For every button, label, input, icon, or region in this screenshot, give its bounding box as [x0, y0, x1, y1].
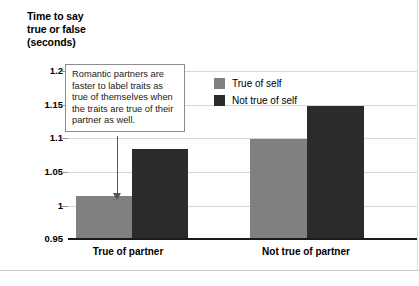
- gridline-1.1: [68, 138, 417, 139]
- legend-label-true-of-self: True of self: [232, 78, 282, 89]
- y-tick-label-1: 1: [6, 200, 63, 211]
- bar-not-true-of-partner-true-of-self: [250, 139, 307, 239]
- annotation-callout: Romantic partners are faster to label tr…: [65, 64, 185, 132]
- legend-swatch-icon-not-true-of-self: [214, 95, 225, 106]
- legend-item-true-of-self: True of self: [214, 76, 297, 91]
- y-tick-label-1.15: 1.15: [6, 99, 63, 110]
- y-tick-mark-1.05: [62, 172, 68, 173]
- callout-arrowhead-icon: [113, 193, 121, 200]
- bar-true-of-partner-true-of-self: [76, 196, 132, 239]
- y-axis-labels: 1.2 1.15 1.1 1.05 1 0.95: [0, 0, 63, 286]
- y-tick-label-1.05: 1.05: [6, 166, 63, 177]
- x-axis-line: [68, 238, 417, 240]
- x-axis-label-true-of-partner: True of partner: [68, 246, 188, 257]
- bar-true-of-partner-not-true-of-self: [132, 149, 188, 239]
- figure-right-border: [417, 0, 418, 271]
- y-tick-mark-1.1: [62, 138, 68, 139]
- gridline-1.05: [68, 172, 417, 173]
- figure-bottom-border: [0, 270, 419, 271]
- chart-figure: Time to say true or false (seconds) 1.2 …: [0, 0, 419, 286]
- legend-swatch-icon-true-of-self: [214, 78, 225, 89]
- y-tick-mark-1: [62, 206, 68, 207]
- x-axis-label-not-true-of-partner: Not true of partner: [246, 246, 366, 257]
- callout-leader-line: [117, 136, 118, 196]
- legend-item-not-true-of-self: Not true of self: [214, 93, 297, 108]
- y-tick-label-1.1: 1.1: [6, 132, 63, 143]
- bar-not-true-of-partner-not-true-of-self: [307, 106, 364, 239]
- y-tick-label-0.95: 0.95: [6, 233, 63, 244]
- y-tick-label-1.2: 1.2: [6, 65, 63, 76]
- legend-label-not-true-of-self: Not true of self: [232, 95, 297, 106]
- chart-legend: True of self Not true of self: [214, 76, 297, 110]
